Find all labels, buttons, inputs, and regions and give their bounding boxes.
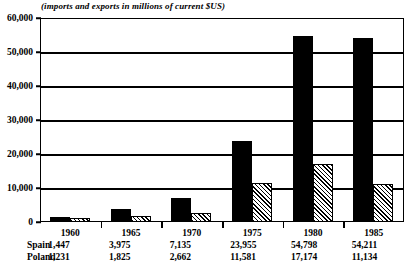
y-axis-label-20000: 20,000	[7, 149, 33, 159]
x-axis-label-1985: 1985	[364, 228, 383, 238]
table-cell-spain-1965: 3,975	[109, 240, 130, 250]
x-axis-label-1970: 1970	[182, 228, 201, 238]
x-axis-label-1965: 1965	[122, 228, 141, 238]
table-cell-spain-1970: 7,135	[170, 240, 191, 250]
bar-spain-1970	[171, 198, 191, 222]
bar-poland-1985	[373, 184, 393, 222]
table-row-label-spain: Spain	[27, 240, 50, 250]
bar-poland-1970	[191, 213, 211, 222]
table-cell-spain-1985: 54,211	[352, 240, 378, 250]
bar-spain-1965	[111, 209, 131, 223]
table-row: Poland1,2311,8252,66211,58117,17411,134	[0, 252, 415, 264]
chart-caption: (imports and exports in millions of curr…	[41, 1, 225, 11]
y-axis-label-50000: 50,000	[7, 47, 33, 57]
table-row: Spain1,4473,9757,13523,95554,79854,211	[0, 240, 415, 252]
x-axis-tick-2	[161, 222, 163, 228]
table-cell-poland-1980: 17,174	[291, 252, 317, 262]
bar-poland-1965	[131, 216, 151, 222]
bar-spain-1975	[232, 141, 252, 222]
bar-spain-1985	[353, 38, 373, 222]
bar-poland-1980	[313, 164, 333, 222]
table-cell-spain-1960: 1,447	[48, 240, 69, 250]
x-axis-tick-3	[222, 222, 224, 228]
y-axis-label-60000: 60,000	[7, 13, 33, 23]
y-axis-label-0: 0	[28, 217, 33, 227]
bar-spain-1980	[293, 36, 313, 222]
x-axis-label-1960: 1960	[61, 228, 80, 238]
bar-poland-1975	[252, 183, 272, 222]
table-cell-poland-1965: 1,825	[109, 252, 130, 262]
x-axis-label-1980: 1980	[304, 228, 323, 238]
y-axis-tick-40000	[36, 85, 41, 87]
table-cell-poland-1975: 11,581	[230, 252, 256, 262]
table-cell-poland-1985: 11,134	[352, 252, 378, 262]
chart-figure: (imports and exports in millions of curr…	[0, 0, 415, 269]
x-axis-tick-1	[101, 222, 103, 228]
y-axis-tick-60000	[36, 17, 41, 19]
bar-spain-1960	[50, 217, 70, 222]
y-axis-label-30000: 30,000	[7, 115, 33, 125]
x-axis-label-1975: 1975	[243, 228, 262, 238]
y-axis-tick-20000	[36, 153, 41, 155]
y-axis-label-40000: 40,000	[7, 81, 33, 91]
table-cell-poland-1970: 2,662	[170, 252, 191, 262]
y-axis-tick-0	[36, 221, 41, 223]
x-axis-tick-5	[343, 222, 345, 228]
table-cell-spain-1980: 54,798	[291, 240, 317, 250]
y-axis-tick-10000	[36, 187, 41, 189]
y-axis-tick-50000	[36, 51, 41, 53]
table-cell-poland-1960: 1,231	[48, 252, 69, 262]
bars-layer	[40, 18, 404, 222]
data-table: Spain1,4473,9757,13523,95554,79854,211Po…	[0, 240, 415, 264]
x-axis-tick-4	[283, 222, 285, 228]
bar-poland-1960	[70, 218, 90, 222]
table-cell-spain-1975: 23,955	[230, 240, 256, 250]
y-axis-tick-30000	[36, 119, 41, 121]
y-axis-label-10000: 10,000	[7, 183, 33, 193]
